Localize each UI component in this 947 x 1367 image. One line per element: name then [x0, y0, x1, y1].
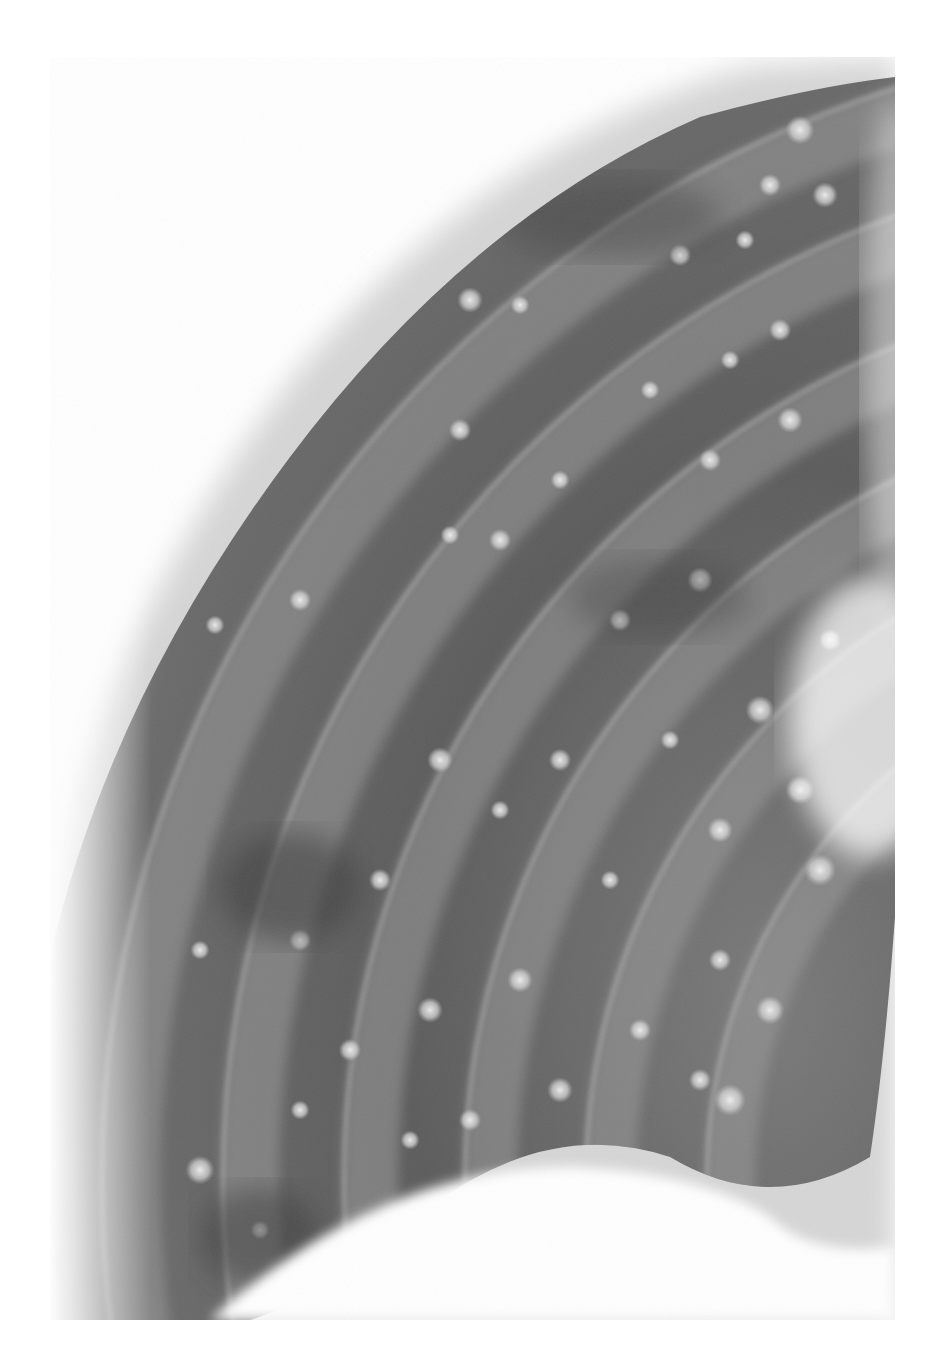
page-canvas: [0, 0, 947, 1367]
chest-radiograph: [50, 57, 895, 1320]
radiograph-image: [50, 57, 895, 1320]
